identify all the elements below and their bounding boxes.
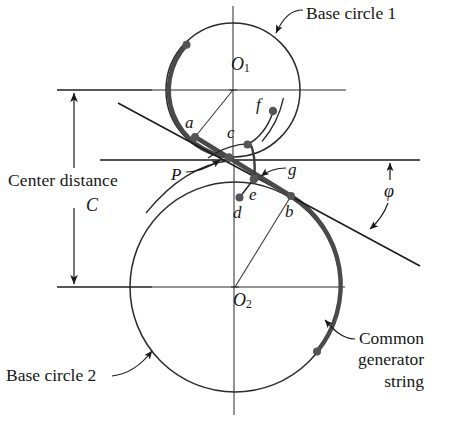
label-base-circle-2: Base circle 2 bbox=[6, 366, 96, 385]
label-point-d: d bbox=[233, 204, 242, 222]
label-point-g: g bbox=[288, 161, 297, 179]
leader-P bbox=[186, 160, 220, 172]
leader-base-circle-2 bbox=[112, 351, 152, 376]
center-lines bbox=[57, 6, 346, 415]
label-center-distance: Center distance bbox=[8, 171, 118, 190]
phi-arrow-down bbox=[370, 203, 388, 229]
label-point-a: a bbox=[185, 114, 194, 132]
label-pressure-angle: φ bbox=[384, 182, 394, 201]
label-pitch-point-P: P bbox=[171, 166, 181, 184]
involute-lower-extension bbox=[146, 161, 231, 214]
common-line-1: Common bbox=[359, 328, 424, 348]
label-center-O1: O1 bbox=[231, 55, 250, 74]
center-O2-name: O bbox=[233, 290, 246, 310]
label-base-circle-1: Base circle 1 bbox=[306, 4, 396, 23]
point-marker-pitch-P bbox=[225, 153, 233, 161]
point-marker-f bbox=[269, 107, 277, 115]
point-marker-circle1-top bbox=[183, 41, 191, 49]
involute-arc-right-of-c bbox=[262, 98, 284, 142]
involute-c-to-f bbox=[248, 113, 273, 145]
radius-O2-to-b bbox=[235, 196, 291, 287]
label-common-generator-string: Commongeneratorstring bbox=[358, 328, 424, 392]
point-marker-e bbox=[250, 175, 259, 184]
label-center-O2: O2 bbox=[233, 291, 252, 310]
common-line-3: string bbox=[384, 371, 424, 391]
point-marker-a bbox=[191, 133, 199, 141]
center-O2-subscript: 2 bbox=[246, 298, 252, 310]
label-center-distance-symbol: C bbox=[86, 196, 98, 215]
label-point-e: e bbox=[249, 186, 257, 204]
leader-g bbox=[261, 168, 286, 176]
point-marker-d bbox=[236, 194, 244, 202]
center-O1-subscript: 1 bbox=[244, 62, 250, 74]
point-marker-b bbox=[287, 192, 295, 200]
point-marker-c bbox=[244, 141, 252, 149]
label-point-f: f bbox=[256, 96, 261, 114]
leader-base-circle-1 bbox=[276, 10, 303, 33]
common-line-2: generator bbox=[358, 349, 424, 369]
label-point-c: c bbox=[227, 124, 235, 142]
point-marker-circle2-bottom bbox=[313, 348, 321, 356]
label-point-b: b bbox=[285, 203, 294, 221]
center-O1-name: O bbox=[231, 54, 244, 74]
